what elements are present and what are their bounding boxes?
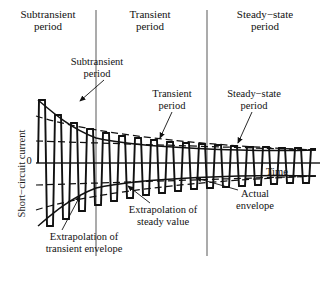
callout-actual-envelope-label: Actualenvelope bbox=[236, 188, 274, 211]
leader-subtransient bbox=[80, 80, 104, 101]
callout-transient-period: Transientperiod bbox=[130, 88, 214, 112]
callout-steady-state-period-label: Steady−stateperiod bbox=[227, 88, 281, 111]
header-steady-state-period-label: Steady−stateperiod bbox=[237, 8, 293, 32]
callout-extrapolation-steady-value: Extrapolation ofsteady value bbox=[105, 204, 221, 228]
leader-steady-state bbox=[238, 112, 252, 143]
header-subtransient-period-label: Subtransientperiod bbox=[21, 8, 76, 32]
zero-tick-text: 0 bbox=[26, 155, 31, 166]
callout-subtransient-period-label: Subtransientperiod bbox=[71, 56, 124, 79]
figure-root: Subtransientperiod Transientperiod Stead… bbox=[0, 0, 332, 289]
callout-subtransient-period: Subtransientperiod bbox=[53, 56, 141, 80]
callout-extrapolation-steady-value-label: Extrapolation ofsteady value bbox=[129, 204, 198, 227]
y-axis-label: Short−circuit current bbox=[16, 109, 27, 239]
y-axis-label-text: Short−circuit current bbox=[16, 130, 27, 218]
callout-extrapolation-transient-envelope-label: Extrapolation oftransient envelope bbox=[46, 231, 123, 254]
callout-extrapolation-transient-envelope: Extrapolation oftransient envelope bbox=[22, 231, 146, 255]
callout-actual-envelope: Actualenvelope bbox=[218, 188, 292, 212]
callout-steady-state-period: Steady−stateperiod bbox=[210, 88, 298, 112]
header-transient-period: Transientperiod bbox=[110, 8, 190, 33]
leader-transient bbox=[160, 112, 172, 138]
callout-transient-period-label: Transientperiod bbox=[152, 88, 191, 111]
header-subtransient-period: Subtransientperiod bbox=[8, 8, 88, 33]
header-transient-period-label: Transientperiod bbox=[129, 8, 170, 32]
x-axis-label-text: Time bbox=[266, 166, 288, 177]
header-steady-state-period: Steady−stateperiod bbox=[222, 8, 308, 33]
x-axis-label: Time bbox=[266, 166, 310, 178]
